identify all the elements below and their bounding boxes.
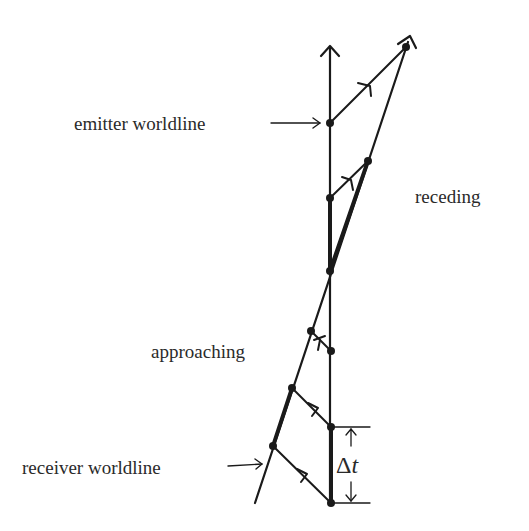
event-dot bbox=[402, 43, 410, 51]
event-dot bbox=[326, 267, 334, 275]
event-dot bbox=[326, 194, 334, 202]
receiving-interval-approaching bbox=[273, 388, 292, 446]
event-dot bbox=[326, 119, 334, 127]
receiver-pointer bbox=[228, 464, 262, 466]
event-dot bbox=[269, 442, 277, 450]
event-dot bbox=[327, 499, 335, 507]
delta-symbol: Δ bbox=[336, 452, 351, 478]
event-dot bbox=[327, 423, 335, 431]
event-dot bbox=[288, 384, 296, 392]
approaching-ray-3 bbox=[273, 446, 331, 503]
receiving-interval-receding bbox=[330, 161, 368, 271]
approaching-label: approaching bbox=[151, 341, 245, 362]
receding-label: receding bbox=[415, 186, 481, 207]
event-dot bbox=[327, 347, 335, 355]
delta-t-label: Δt bbox=[336, 452, 359, 478]
approaching-ray-1 bbox=[311, 331, 331, 351]
t-variable: t bbox=[351, 452, 359, 478]
receiver-worldline-label: receiver worldline bbox=[22, 457, 161, 478]
event-dot bbox=[364, 157, 372, 165]
spacetime-diagram: emitter worldline receding approaching r… bbox=[0, 0, 529, 531]
event-dot bbox=[307, 327, 315, 335]
emitter-worldline-label: emitter worldline bbox=[74, 113, 205, 134]
approaching-ray-2 bbox=[292, 388, 331, 427]
